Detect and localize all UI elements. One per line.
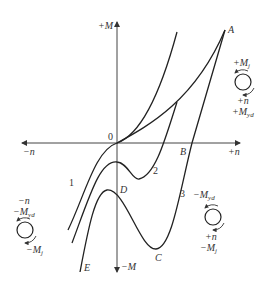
lower-right-speed-label: +n <box>205 232 217 242</box>
rotation-icon-upper-right <box>235 70 254 95</box>
curve-3 <box>80 30 225 272</box>
torque-speed-diagram: +M −M +n −n 0 1 2 3 A B C D E +Mj +n +My… <box>0 0 271 281</box>
upper-right-load-torque-label: +Myd <box>232 107 254 119</box>
y-axis-negative-label: −M <box>121 262 136 272</box>
lower-right-torque-label: −Mj <box>200 243 217 255</box>
origin-label: 0 <box>108 132 113 142</box>
point-E-label: E <box>84 263 90 273</box>
upper-right-torque-label: +Mj <box>233 58 250 70</box>
lower-left-load-torque-label: −Myd <box>13 207 35 219</box>
point-C-label: C <box>155 253 162 263</box>
x-axis-negative-label: −n <box>23 147 35 157</box>
curve-2-label: 2 <box>153 166 158 176</box>
rotation-icon-lower-right <box>205 205 224 230</box>
curve-3-label: 3 <box>180 189 185 199</box>
lower-right-load-torque-label: −Myd <box>193 190 215 202</box>
y-axis-positive-label: +M <box>98 21 113 31</box>
lower-left-speed-label: −n <box>18 196 30 206</box>
diagram-graphics <box>0 0 271 281</box>
point-B-label: B <box>180 147 186 157</box>
point-A-label: A <box>228 25 234 35</box>
x-axis-positive-label: +n <box>228 147 240 157</box>
lower-left-torque-label: −Mj <box>26 245 43 257</box>
curve-1 <box>68 32 177 230</box>
point-D-label: D <box>120 185 127 195</box>
curve-2 <box>72 102 177 243</box>
curve-1-label: 1 <box>69 178 74 188</box>
rotation-icon-lower-left <box>17 218 36 243</box>
upper-right-speed-label: +n <box>237 96 249 106</box>
